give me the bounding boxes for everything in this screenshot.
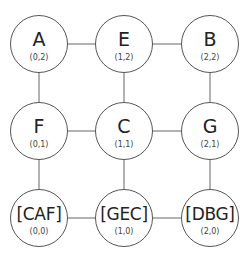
node-coord: (1,0) [96, 227, 152, 236]
node-coord: (1,1) [96, 140, 152, 149]
node-g: G (2,1) [181, 102, 239, 160]
node-label: [DBG] [182, 204, 238, 224]
node-label: [GEC] [96, 204, 152, 224]
node-coord: (2,2) [182, 53, 238, 62]
node-caf: [CAF] (0,0) [10, 189, 68, 247]
node-coord: (0,0) [11, 227, 67, 236]
node-coord: (0,2) [11, 53, 67, 62]
node-label: [CAF] [11, 204, 67, 224]
node-gec: [GEC] (1,0) [95, 189, 153, 247]
node-e: E (1,2) [95, 15, 153, 73]
node-label: F [11, 116, 67, 136]
node-dbg: [DBG] (2,0) [181, 189, 239, 247]
node-label: B [182, 29, 238, 49]
node-label: E [96, 29, 152, 49]
node-c: C (1,1) [95, 102, 153, 160]
node-coord: (2,1) [182, 140, 238, 149]
node-coord: (1,2) [96, 53, 152, 62]
node-label: A [11, 29, 67, 49]
node-coord: (0,1) [11, 140, 67, 149]
node-label: C [96, 116, 152, 136]
node-label: G [182, 116, 238, 136]
node-coord: (2,0) [182, 227, 238, 236]
node-a: A (0,2) [10, 15, 68, 73]
node-b: B (2,2) [181, 15, 239, 73]
node-f: F (0,1) [10, 102, 68, 160]
